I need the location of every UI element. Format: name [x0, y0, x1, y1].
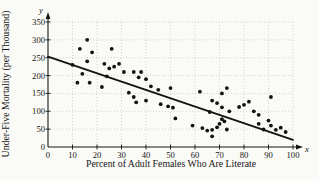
data-point	[139, 70, 143, 74]
data-point	[210, 99, 214, 103]
data-point	[88, 81, 92, 85]
scatter-chart: 0102030405060708090100050100150200250300…	[0, 0, 319, 180]
data-point	[205, 129, 209, 133]
data-point	[215, 101, 219, 105]
data-point	[110, 47, 114, 51]
data-point	[78, 47, 82, 51]
data-point	[284, 130, 288, 134]
x-tick-label: 100	[287, 150, 300, 160]
data-point	[159, 102, 163, 106]
data-point	[262, 128, 266, 132]
y-tick-label: 100	[32, 106, 45, 116]
y-tick-label: 350	[32, 17, 45, 27]
data-point	[274, 128, 278, 132]
chart-generated-layer: 0102030405060708090100050100150200250300…	[32, 12, 303, 160]
data-point	[169, 86, 173, 90]
data-point	[267, 119, 271, 123]
data-point	[237, 105, 241, 109]
data-point	[90, 50, 94, 54]
data-point	[102, 62, 106, 66]
data-point	[76, 81, 80, 85]
data-point	[144, 77, 148, 81]
data-point	[269, 124, 273, 128]
data-point	[80, 72, 84, 76]
data-point	[132, 70, 136, 74]
y-tick-label: 200	[32, 71, 45, 81]
data-point	[220, 105, 224, 109]
data-point	[105, 74, 109, 78]
data-point	[117, 62, 121, 66]
data-point	[279, 126, 283, 130]
data-point	[107, 67, 111, 71]
data-point	[225, 86, 229, 90]
x-variable-letter: x	[304, 144, 309, 154]
data-point	[223, 119, 227, 123]
data-point	[257, 122, 261, 126]
data-point	[198, 90, 202, 94]
data-point	[200, 126, 204, 130]
data-point	[208, 110, 212, 114]
y-tick-label: 250	[32, 53, 45, 63]
data-point	[149, 84, 153, 88]
data-point	[137, 75, 141, 79]
data-point	[166, 104, 170, 108]
y-tick-label: 0	[41, 142, 45, 152]
data-point	[220, 92, 224, 96]
data-point	[171, 106, 175, 110]
y-tick-label: 50	[36, 124, 45, 134]
data-point	[218, 122, 222, 126]
data-point	[174, 117, 178, 121]
data-point	[144, 99, 148, 103]
y-tick-label: 300	[32, 35, 45, 45]
data-point	[210, 134, 214, 138]
data-point	[122, 70, 126, 74]
data-point	[210, 128, 214, 132]
x-axis-title: Percent of Adult Females Who Are Literat…	[86, 158, 257, 169]
y-tick-label: 150	[32, 88, 45, 98]
data-point	[252, 109, 256, 113]
data-point	[215, 125, 219, 129]
data-point	[225, 128, 229, 132]
data-point	[127, 91, 131, 95]
data-point	[247, 100, 251, 104]
data-point	[191, 124, 195, 128]
data-point	[242, 103, 246, 107]
data-point	[257, 113, 261, 117]
x-tick-label: 90	[264, 150, 273, 160]
data-point	[100, 85, 104, 89]
data-point	[227, 109, 231, 113]
data-point	[134, 100, 138, 104]
y-axis-arrow-icon	[46, 12, 51, 19]
y-axis-title: Under-Five Mortality (per Thousand)	[0, 11, 12, 158]
data-point	[71, 63, 75, 67]
x-tick-label: 10	[68, 150, 77, 160]
data-point	[132, 95, 136, 99]
data-point	[269, 95, 273, 99]
data-point	[112, 65, 116, 69]
y-variable-letter: y	[38, 5, 43, 15]
data-point	[85, 59, 89, 63]
x-tick-label: 0	[46, 150, 50, 160]
scatter-plot-figure: 0102030405060708090100050100150200250300…	[0, 0, 319, 180]
data-point	[85, 38, 89, 42]
data-point	[156, 88, 160, 92]
